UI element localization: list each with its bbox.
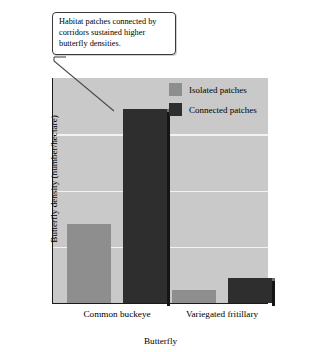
legend-label-connected: Connected patches — [189, 105, 257, 115]
legend-swatch-isolated-icon — [169, 83, 182, 96]
legend-item-isolated: Isolated patches — [169, 83, 257, 96]
x-tick-label-variegated-fritillary: Variegated fritillary — [186, 309, 258, 319]
callout-annotation: Habitat patches connected by corridors s… — [52, 12, 176, 55]
bar-common-buckeye-isolated — [67, 224, 111, 303]
callout-text: Habitat patches connected by corridors s… — [59, 17, 156, 48]
legend-swatch-connected-icon — [169, 103, 182, 116]
legend: Isolated patches Connected patches — [169, 83, 257, 123]
x-axis-title: Butterfly — [53, 336, 268, 346]
bar-common-buckeye-connected — [123, 109, 167, 303]
plot-area: 0 1 2 3 4 Isolated patches — [52, 78, 268, 304]
bar-variegated-fritillary-isolated — [172, 290, 216, 303]
x-tick-label-common-buckeye: Common buckeye — [83, 309, 150, 319]
legend-item-connected: Connected patches — [169, 103, 257, 116]
bar-variegated-fritillary-connected — [228, 278, 272, 303]
y-axis-title: Butterfly density (number/hectare) — [49, 47, 59, 311]
legend-label-isolated: Isolated patches — [189, 85, 247, 95]
